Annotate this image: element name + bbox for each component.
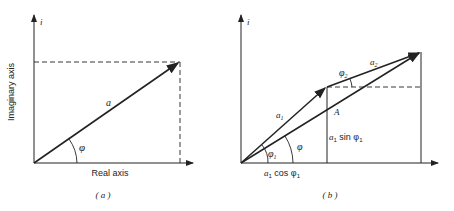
angle-arc-phi	[69, 139, 77, 163]
resultant-A-label: A	[333, 107, 340, 117]
vector-a-label: a	[106, 97, 111, 108]
vector-a2-label: a2	[370, 57, 378, 68]
panel-a	[34, 15, 193, 163]
horizontal-component-label: a1 cos φ1	[264, 168, 301, 179]
vector-a1	[241, 88, 325, 163]
angle-arc-phi	[285, 136, 293, 163]
imaginary-axis-label: Imaginary axis	[6, 62, 16, 121]
vertical-component-label: a1 sin φ1	[329, 132, 363, 143]
angle-phi-total-label: φ	[297, 141, 303, 152]
vector-a	[34, 63, 178, 163]
y-axis-symbol-b: i	[247, 17, 250, 27]
caption-b: ( b )	[323, 190, 338, 200]
vector-a1-label: a1	[276, 110, 284, 121]
angle-phi-label: φ	[79, 141, 85, 153]
phasor-diagram: i Imaginary axis Real axis a φ ( a ) i a…	[0, 0, 454, 211]
real-axis-label: Real axis	[91, 168, 129, 178]
angle-phi2-label: φ2	[339, 67, 348, 79]
angle-phi1-label: φ1	[268, 148, 277, 160]
caption-a: ( a )	[96, 190, 111, 200]
resultant-vector-A	[241, 53, 419, 163]
angle-arc-phi2	[350, 79, 352, 87]
y-axis-symbol-a: i	[40, 17, 43, 27]
